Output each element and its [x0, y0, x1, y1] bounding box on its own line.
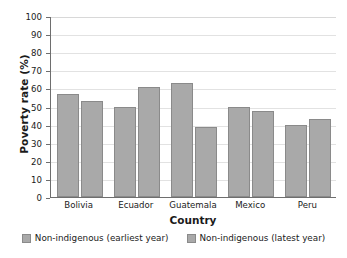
bar[interactable] [81, 101, 103, 197]
y-axis-tick [46, 126, 50, 127]
legend-label: Non-indigenous (latest year) [200, 233, 326, 243]
legend-swatch-icon [22, 234, 31, 243]
x-axis-tick-label: Bolivia [50, 200, 107, 210]
bar[interactable] [171, 83, 193, 197]
y-axis-tick [46, 71, 50, 72]
bar[interactable] [114, 107, 136, 198]
bar-group [51, 17, 108, 197]
y-axis-tick [46, 162, 50, 163]
x-axis-tick-label: Guatemala [164, 200, 221, 210]
legend-item[interactable]: Non-indigenous (earliest year) [22, 233, 169, 243]
bar[interactable] [195, 127, 217, 197]
y-axis-tick [46, 35, 50, 36]
y-axis-tick-label: 70 [18, 67, 42, 75]
chart-figure: Poverty rate (%) 0102030405060708090100 … [0, 0, 347, 258]
legend-item[interactable]: Non-indigenous (latest year) [187, 233, 326, 243]
y-axis-tick-label: 0 [18, 194, 42, 202]
x-axis-title: Country [50, 214, 336, 226]
bar-group [279, 17, 336, 197]
legend-label: Non-indigenous (earliest year) [35, 233, 169, 243]
y-axis-tick [46, 89, 50, 90]
plot-area [50, 17, 336, 198]
bar-group [108, 17, 165, 197]
bar[interactable] [309, 119, 331, 197]
y-axis-tick-label: 90 [18, 31, 42, 39]
y-axis-tick-label: 100 [18, 13, 42, 21]
y-axis-tick-label: 40 [18, 122, 42, 130]
bar[interactable] [285, 125, 307, 197]
y-axis-tick [46, 198, 50, 199]
y-axis-tick-label: 50 [18, 104, 42, 112]
x-axis-tick-labels: BoliviaEcuadorGuatemalaMexicoPeru [50, 200, 336, 210]
x-axis-tick-label: Mexico [222, 200, 279, 210]
bar-groups [51, 17, 336, 197]
bar[interactable] [252, 111, 274, 197]
x-axis-tick-label: Ecuador [107, 200, 164, 210]
y-axis-tick-label: 80 [18, 49, 42, 57]
y-axis-tick [46, 180, 50, 181]
bar[interactable] [228, 107, 250, 197]
chart-legend: Non-indigenous (earliest year)Non-indige… [0, 233, 347, 243]
y-axis-tick [46, 17, 50, 18]
legend-swatch-icon [187, 234, 196, 243]
y-axis-tick-label: 20 [18, 158, 42, 166]
y-axis-tick [46, 144, 50, 145]
y-axis-tick [46, 108, 50, 109]
bar-group [222, 17, 279, 197]
y-axis-tick-label: 30 [18, 140, 42, 148]
y-axis-tick-label: 10 [18, 176, 42, 184]
bar-group [165, 17, 222, 197]
bar[interactable] [57, 94, 79, 197]
y-axis-tick-label: 60 [18, 85, 42, 93]
bar[interactable] [138, 87, 160, 197]
y-axis-tick [46, 53, 50, 54]
x-axis-tick-label: Peru [279, 200, 336, 210]
